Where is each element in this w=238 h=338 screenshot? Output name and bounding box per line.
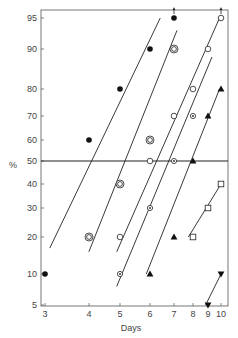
- x-tick-label: 4: [86, 309, 91, 319]
- y-tick-label: 40: [27, 179, 37, 189]
- dotted-circle-marker: [171, 158, 176, 163]
- filled-triangle-up-marker: [171, 233, 178, 239]
- y-tick-label: 70: [27, 111, 37, 121]
- x-axis-title: Days: [121, 323, 142, 333]
- open-square-marker: [190, 234, 196, 240]
- filled-circle-fit-line: [50, 18, 160, 248]
- filled-circle-marker: [117, 86, 123, 92]
- data-markers: [42, 7, 224, 309]
- plot-border: [41, 10, 228, 306]
- filled-circle-marker: [42, 271, 48, 277]
- open-circle-marker: [117, 234, 123, 240]
- filled-triangle-down-marker: [218, 271, 225, 277]
- filled-circle-marker: [171, 15, 177, 21]
- y-tick-label: 60: [27, 135, 37, 145]
- dotted-circle-marker: [117, 271, 122, 276]
- open-square-marker: [205, 205, 211, 211]
- filled-triangle-down-marker: [205, 302, 212, 308]
- open-circle-marker: [147, 158, 153, 164]
- filled-triangle-up-marker: [218, 85, 225, 91]
- y-tick-label: 50: [27, 156, 37, 166]
- y-tick-label: 20: [27, 232, 37, 242]
- arrow-up-icon: [173, 7, 176, 14]
- open-circle-marker: [190, 86, 196, 92]
- y-tick-label: 5: [32, 300, 37, 310]
- double-circle-marker: [85, 233, 93, 241]
- double-circle-marker: [116, 180, 124, 188]
- arrow-up-icon: [220, 7, 223, 14]
- x-tick-label: 5: [117, 309, 122, 319]
- open-square-marker: [218, 181, 224, 187]
- filled-triangle-down-fit-line: [206, 274, 221, 305]
- x-tick-label: 7: [171, 309, 176, 319]
- dotted-circle-marker: [147, 205, 152, 210]
- dotted-circle-fit-line: [117, 57, 212, 286]
- y-tick-label: 95: [27, 13, 37, 23]
- dotted-circle-marker: [190, 113, 195, 118]
- y-tick-label: 90: [27, 44, 37, 54]
- double-circle-fit-line: [89, 30, 177, 251]
- filled-circle-marker: [147, 46, 153, 52]
- y-tick-label: 30: [27, 203, 37, 213]
- open-circle-marker: [171, 113, 177, 119]
- open-circle-marker: [218, 15, 224, 21]
- open-square-fit-line: [188, 184, 221, 237]
- filled-circle-marker: [86, 137, 92, 143]
- y-tick-label: 80: [27, 84, 37, 94]
- x-tick-label: 10: [216, 309, 226, 319]
- y-tick-label: 10: [27, 269, 37, 279]
- plot-frame: [41, 10, 228, 306]
- open-circle-marker: [205, 46, 211, 52]
- x-tick-label: 3: [42, 309, 47, 319]
- double-circle-marker: [170, 45, 178, 53]
- x-tick-label: 8: [190, 309, 195, 319]
- probit-chart: 510203040506070809095 345678910 Days %: [0, 0, 238, 338]
- y-axis-title: %: [9, 160, 17, 170]
- double-circle-marker: [146, 136, 154, 144]
- x-tick-label: 6: [147, 309, 152, 319]
- x-tick-label: 9: [205, 309, 210, 319]
- x-axis: 345678910: [42, 303, 226, 319]
